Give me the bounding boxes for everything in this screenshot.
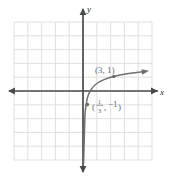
y-axis-arrow-down [80,166,87,173]
label-y-value: −1 [108,99,118,109]
logarithmic-graph-figure: y x (3, 1) ( 1 3 , −1 ) [0,0,169,177]
point-label-3-1: (3, 1) [95,65,115,75]
x-axis-arrow-right [151,88,158,95]
curve-arrow-right [142,69,150,75]
x-axis-label: x [159,87,164,97]
fraction-numerator: 1 [98,98,102,106]
curve-path [84,72,143,163]
point-marker-one-third-neg-one [86,103,89,106]
paren-close: ) [118,102,121,112]
label-comma: , [104,102,106,112]
x-axis-arrow-left [8,88,15,95]
y-axis-arrow-up [80,8,87,15]
fraction-denominator: 3 [98,107,102,115]
coordinate-plane: y x (3, 1) ( 1 3 , −1 ) [0,0,169,177]
point-label-one-third-neg-one: ( 1 3 , −1 ) [92,98,121,115]
paren-open: ( [92,102,95,112]
log-curve [84,69,149,163]
y-axis-label: y [86,4,91,14]
point-marker-3-1 [112,75,115,78]
